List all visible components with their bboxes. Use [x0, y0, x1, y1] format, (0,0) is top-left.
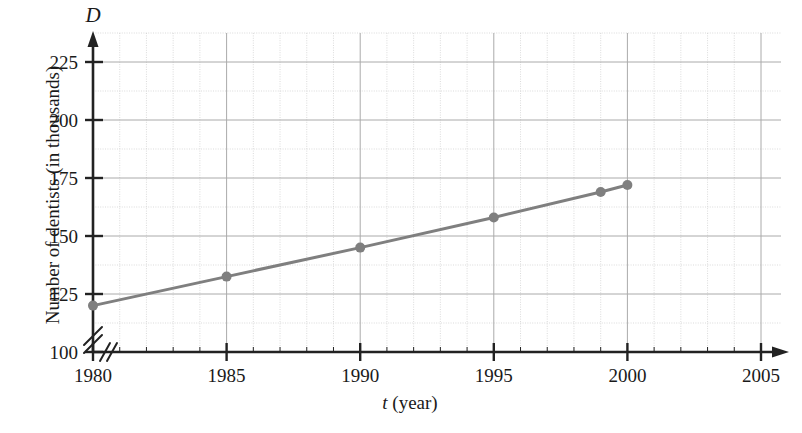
x-axis-title-symbol: t [382, 392, 387, 413]
data-point [622, 180, 632, 190]
x-tick-label: 1985 [208, 365, 246, 386]
grid-major-lines [93, 33, 781, 352]
data-point [88, 301, 98, 311]
data-point [596, 187, 606, 197]
x-tick-label: 1990 [341, 365, 379, 386]
x-tick-label: 1995 [475, 365, 513, 386]
x-axis [93, 347, 789, 358]
x-axis-tick-labels: 198019851990199520002005 [74, 365, 780, 386]
y-axis-title-text: Number of dentists (in thousands) [40, 30, 66, 360]
x-axis-title: t (year) [300, 392, 520, 414]
chart-plot-area: 100125150175200225 198019851990199520002… [0, 0, 802, 433]
chart-figure: Number of dentists (in thousands) t (yea… [0, 0, 802, 433]
data-point [489, 212, 499, 222]
x-tick-label: 1980 [74, 365, 112, 386]
x-tick-label: 2000 [608, 365, 646, 386]
data-point [355, 243, 365, 253]
y-axis-symbol: D [84, 3, 100, 27]
x-tick-label: 2005 [742, 365, 780, 386]
y-axis-title: Number of dentists (in thousands) [14, 30, 40, 360]
grid-minor-lines [93, 33, 781, 352]
data-point [222, 272, 232, 282]
x-axis-title-unit: (year) [392, 392, 437, 413]
